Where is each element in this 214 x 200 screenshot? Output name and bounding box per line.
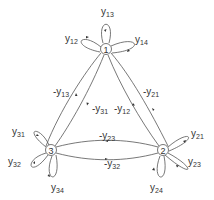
label-y12: y12 — [65, 34, 78, 45]
edge-3-to-1 — [46, 53, 101, 146]
self-loop-y12 — [81, 39, 101, 52]
label-y13: y13 — [101, 7, 114, 18]
label-neg-y32: -y32 — [104, 159, 120, 170]
edge-1-to-3 — [55, 55, 104, 146]
label-y34: y34 — [51, 183, 64, 194]
self-loop-y14 — [111, 42, 134, 53]
label-y24: y24 — [150, 183, 163, 194]
edge-2-to-1 — [108, 55, 159, 146]
label-neg-y13: -y13 — [53, 87, 69, 98]
self-loop-y24 — [157, 156, 165, 177]
label-y23: y23 — [188, 157, 201, 168]
self-loop-y21 — [168, 136, 189, 151]
label-neg-y12: -y12 — [114, 104, 130, 115]
edge-1-to-2 — [111, 53, 168, 146]
self-loop-y23 — [165, 153, 188, 169]
label-neg-y21: -y21 — [143, 87, 159, 98]
self-loop-y13 — [101, 24, 110, 43]
svg-text:2: 2 — [160, 146, 165, 156]
label-y21: y21 — [191, 129, 204, 140]
svg-text:1: 1 — [103, 45, 108, 55]
node-2: 2 — [158, 145, 169, 156]
label-y31: y31 — [12, 127, 25, 138]
svg-text:3: 3 — [48, 146, 53, 156]
label-neg-y31: -y31 — [92, 104, 108, 115]
node-1: 1 — [101, 44, 112, 55]
self-loop-y32 — [31, 153, 48, 167]
label-y32: y32 — [8, 157, 21, 168]
signal-flow-graph: 1 2 3 — [0, 0, 214, 200]
label-neg-y23: -y23 — [99, 131, 115, 142]
self-loop-y34 — [49, 155, 57, 177]
node-3: 3 — [46, 145, 57, 156]
label-y14: y14 — [135, 35, 148, 46]
